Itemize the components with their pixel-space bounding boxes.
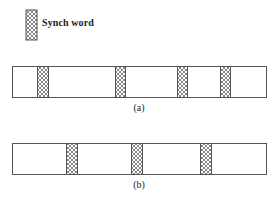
synch-word-block: [221, 67, 231, 98]
synch-word-block: [67, 144, 78, 175]
frame-a: [13, 67, 267, 98]
synch-word-block: [132, 144, 143, 175]
synch-word-block: [178, 67, 188, 98]
synch-word-block: [116, 67, 126, 98]
caption-b: (b): [119, 179, 159, 190]
caption-a: (a): [119, 102, 159, 113]
legend-label: Synch word: [42, 17, 94, 28]
synch-word-block: [201, 144, 212, 175]
synch-word-block: [38, 67, 49, 98]
frame-b: [13, 144, 267, 175]
legend-swatch-icon: [26, 10, 37, 40]
synch-word-diagram: [0, 0, 278, 200]
